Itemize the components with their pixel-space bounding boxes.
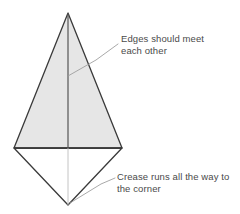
annotation-edges-meet: Edges should meet each other [121,33,236,56]
annotation-crease-corner: Crease runs all the way to the corner [117,171,239,194]
origami-diagram-container: Edges should meet each other Crease runs… [0,0,240,214]
